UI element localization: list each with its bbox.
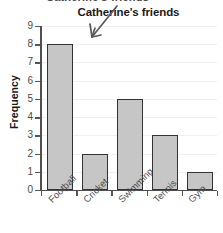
- bar-football: [47, 44, 73, 190]
- x-axis-tick: [217, 191, 218, 196]
- x-axis-tick: [147, 191, 148, 196]
- y-axis-tick: [35, 99, 40, 100]
- y-axis-label: 1: [22, 167, 33, 177]
- y-axis-title: Frequency: [8, 62, 20, 142]
- gridline: [41, 26, 217, 27]
- chart-screenshot: Catherine's friends Catherine's friends …: [0, 0, 223, 233]
- clipped-header-text: Catherine's friends: [46, 0, 196, 3]
- x-axis-tick: [76, 191, 77, 196]
- y-axis-label: 6: [22, 76, 33, 86]
- y-axis-label: 8: [22, 39, 33, 49]
- y-axis-label: 4: [22, 112, 33, 122]
- x-axis-tick: [41, 191, 42, 196]
- y-axis-label: 5: [22, 94, 33, 104]
- x-axis-tick: [111, 191, 112, 196]
- y-axis-line: [40, 26, 42, 191]
- y-axis-label: 7: [22, 57, 33, 67]
- y-axis-tick: [35, 117, 40, 118]
- hand-drawn-arrow-icon: [76, 4, 122, 50]
- y-axis-label: 3: [22, 130, 33, 140]
- y-axis-tick: [35, 44, 40, 45]
- y-axis-tick: [35, 26, 40, 27]
- y-axis-tick: [35, 62, 40, 63]
- y-axis-label: 0: [22, 185, 33, 195]
- y-axis-label: 9: [22, 21, 33, 31]
- y-axis-tick: [35, 190, 40, 191]
- y-axis-label: 2: [22, 149, 33, 159]
- y-axis-tick: [35, 154, 40, 155]
- y-axis-tick: [35, 81, 40, 82]
- x-axis-tick: [182, 191, 183, 196]
- y-axis-tick: [35, 172, 40, 173]
- y-axis-tick: [35, 135, 40, 136]
